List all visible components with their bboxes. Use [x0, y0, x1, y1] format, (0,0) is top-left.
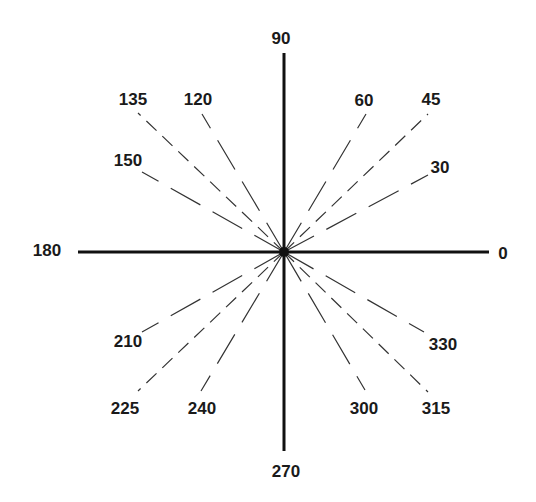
ray-30: [284, 175, 428, 252]
angle-label-90: 90: [272, 29, 291, 48]
ray-240: [201, 252, 284, 391]
ray-315: [284, 252, 428, 392]
angle-labels: 0901802703045601201351502102252403003153…: [33, 29, 508, 481]
angle-label-225: 225: [111, 399, 139, 418]
ray-60: [284, 114, 366, 252]
ray-300: [284, 252, 365, 390]
angle-diagram: 0901802703045601201351502102252403003153…: [0, 0, 536, 502]
angle-label-0: 0: [498, 244, 507, 263]
angle-label-45: 45: [422, 90, 441, 109]
angle-label-330: 330: [429, 335, 457, 354]
angle-label-270: 270: [272, 462, 300, 481]
ray-120: [202, 114, 284, 252]
ray-135: [138, 113, 284, 252]
angle-label-210: 210: [114, 332, 142, 351]
angle-label-240: 240: [188, 399, 216, 418]
angle-label-60: 60: [355, 91, 374, 110]
angle-label-180: 180: [33, 241, 61, 260]
ray-45: [284, 114, 428, 252]
angle-label-135: 135: [119, 90, 147, 109]
angle-label-150: 150: [114, 151, 142, 170]
angle-label-30: 30: [431, 158, 450, 177]
angle-label-120: 120: [184, 90, 212, 109]
angle-label-300: 300: [350, 399, 378, 418]
angle-diagram-canvas: 0901802703045601201351502102252403003153…: [0, 0, 536, 502]
angle-label-315: 315: [422, 399, 450, 418]
ray-225: [138, 252, 284, 391]
origin-point: [279, 247, 289, 257]
